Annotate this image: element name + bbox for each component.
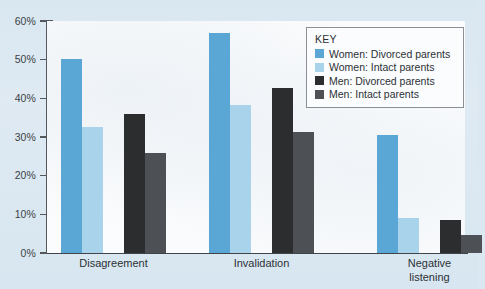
legend-entries: Women: Divorced parentsWomen: Intact par… bbox=[315, 47, 456, 101]
bar bbox=[209, 33, 230, 253]
y-axis-tick-label: 60% bbox=[0, 15, 36, 27]
bar bbox=[272, 88, 293, 253]
legend-entry: Women: Divorced parents bbox=[315, 47, 456, 61]
bar bbox=[398, 218, 419, 253]
bar bbox=[377, 135, 398, 253]
legend-entry: Women: Intact parents bbox=[315, 61, 456, 75]
bar bbox=[461, 235, 482, 253]
y-axis-tick bbox=[40, 136, 47, 137]
chart-legend: KEY Women: Divorced parentsWomen: Intact… bbox=[306, 27, 464, 108]
legend-swatch bbox=[315, 63, 324, 72]
y-axis-tick bbox=[40, 20, 47, 21]
bar bbox=[440, 220, 461, 253]
y-axis-tick-label: 20% bbox=[0, 169, 36, 181]
y-axis-tick-label: 40% bbox=[0, 92, 36, 104]
legend-entry: Men: Intact parents bbox=[315, 88, 456, 102]
legend-label: Men: Divorced parents bbox=[329, 75, 435, 87]
legend-label: Men: Intact parents bbox=[329, 88, 419, 100]
bar bbox=[293, 132, 314, 253]
bar bbox=[124, 114, 145, 253]
y-axis-tick bbox=[40, 214, 47, 215]
y-axis-tick bbox=[40, 59, 47, 60]
y-axis-tick-label: 10% bbox=[0, 208, 36, 220]
legend-swatch bbox=[315, 90, 324, 99]
y-axis-tick bbox=[40, 98, 47, 99]
x-axis-group-label: Invalidation bbox=[207, 257, 317, 271]
x-axis-group-label: Negative listening bbox=[375, 257, 485, 284]
y-axis-tick-label: 0% bbox=[0, 247, 36, 259]
bar bbox=[145, 153, 166, 253]
y-axis-tick-label: 50% bbox=[0, 53, 36, 65]
legend-swatch bbox=[315, 76, 324, 85]
y-axis-tick bbox=[40, 252, 47, 253]
legend-title: KEY bbox=[315, 33, 456, 45]
bar bbox=[61, 59, 82, 253]
x-axis-group-label: Disagreement bbox=[59, 257, 169, 271]
y-axis-tick bbox=[40, 175, 47, 176]
legend-entry: Men: Divorced parents bbox=[315, 74, 456, 88]
legend-swatch bbox=[315, 49, 324, 58]
bar bbox=[230, 105, 251, 253]
legend-label: Women: Intact parents bbox=[329, 61, 434, 73]
legend-label: Women: Divorced parents bbox=[329, 48, 450, 60]
bar bbox=[82, 127, 103, 253]
y-axis-tick-label: 30% bbox=[0, 131, 36, 143]
